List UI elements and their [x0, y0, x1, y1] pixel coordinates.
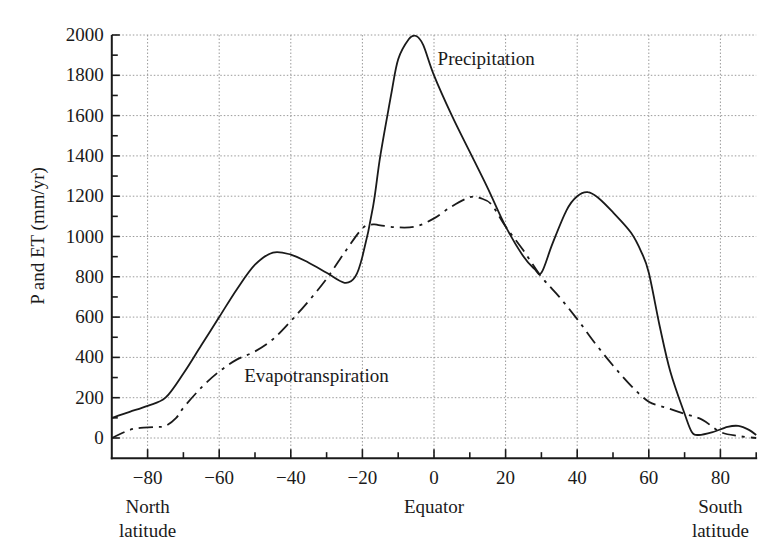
x-axis-captions: NorthlatitudeEquatorSouthlatitude — [119, 496, 749, 541]
y-tick-label: 600 — [75, 306, 104, 327]
x-tick-label: −40 — [276, 467, 306, 488]
x-tick-label: 20 — [496, 467, 515, 488]
y-tick-label: 800 — [75, 266, 104, 287]
x-tick-label: −60 — [204, 467, 234, 488]
x-tick-label: −80 — [133, 467, 163, 488]
y-tick-label: 2000 — [66, 24, 104, 45]
x-tick-label: 60 — [639, 467, 658, 488]
x-caption: latitude — [119, 520, 176, 541]
y-tick-label: 400 — [75, 346, 104, 367]
y-tick-label: 1600 — [66, 105, 104, 126]
x-caption: latitude — [692, 520, 749, 541]
x-tick-label: 40 — [568, 467, 587, 488]
x-caption: South — [698, 496, 743, 517]
x-tick-label: 0 — [429, 467, 439, 488]
y-tick-label: 1000 — [66, 226, 104, 247]
x-caption: Equator — [404, 496, 465, 517]
x-tick-label: 80 — [711, 467, 730, 488]
x-tick-labels: −80−60−40−20020406080 — [133, 467, 730, 488]
evapotranspiration-annotation: Evapotranspiration — [244, 365, 389, 386]
y-tick-label: 1400 — [66, 145, 104, 166]
x-tick-label: −20 — [348, 467, 378, 488]
gridlines — [112, 35, 756, 458]
y-tick-label: 1800 — [66, 64, 104, 85]
y-tick-label: 0 — [94, 427, 104, 448]
x-caption: North — [125, 496, 170, 517]
chart: 0200400600800100012001400160018002000 −8… — [0, 0, 780, 554]
y-tick-labels: 0200400600800100012001400160018002000 — [66, 24, 104, 448]
y-tick-label: 200 — [75, 387, 104, 408]
precipitation-annotation: Precipitation — [438, 48, 536, 69]
y-tick-label: 1200 — [66, 185, 104, 206]
y-axis-label: P and ET (mm/yr) — [27, 167, 49, 305]
